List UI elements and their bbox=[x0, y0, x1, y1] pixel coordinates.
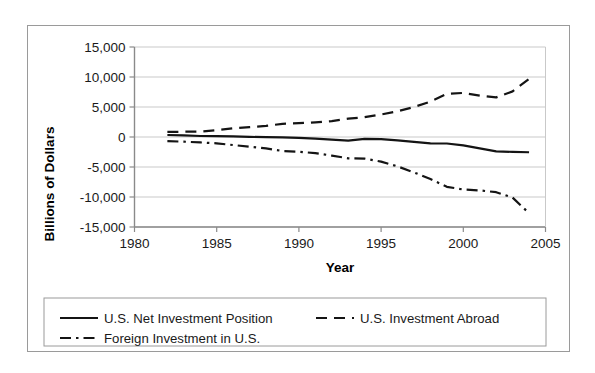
x-tick-labels: 198019851990199520002005 bbox=[119, 236, 560, 251]
series-line-2 bbox=[167, 141, 529, 213]
y-tick-label: 0 bbox=[118, 130, 126, 145]
series-line-1 bbox=[167, 79, 529, 132]
y-tick-labels: 15,00010,0005,0000-5,000-10,000-15,000 bbox=[80, 40, 126, 235]
x-tick-label: 2000 bbox=[448, 236, 478, 251]
y-tick-label: 5,000 bbox=[92, 100, 126, 115]
y-tickmarks bbox=[130, 47, 135, 227]
legend: U.S. Net Investment PositionU.S. Investm… bbox=[44, 298, 546, 346]
x-tick-label: 1990 bbox=[284, 236, 314, 251]
x-tick-label: 2005 bbox=[530, 236, 560, 251]
chart-canvas: 15,00010,0005,0000-5,000-10,000-15,000 1… bbox=[0, 0, 595, 373]
y-tick-label: -15,000 bbox=[80, 220, 126, 235]
y-tick-label: -10,000 bbox=[80, 190, 126, 205]
y-axis-title: Billions of Dollars bbox=[42, 127, 57, 242]
x-tick-label: 1985 bbox=[202, 236, 232, 251]
x-tick-label: 1995 bbox=[366, 236, 396, 251]
y-tick-label: 15,000 bbox=[84, 40, 125, 55]
x-axis-title: Year bbox=[326, 260, 355, 275]
legend-label-2: Foreign Investment in U.S. bbox=[104, 331, 260, 346]
y-tick-label: -5,000 bbox=[87, 160, 125, 175]
series-group bbox=[167, 79, 529, 213]
x-tick-label: 1980 bbox=[119, 236, 149, 251]
y-gridlines bbox=[135, 47, 546, 227]
legend-label-0: U.S. Net Investment Position bbox=[104, 311, 273, 326]
y-tick-label: 10,000 bbox=[84, 70, 125, 85]
x-tickmarks bbox=[135, 227, 546, 232]
figure-root: 15,00010,0005,0000-5,000-10,000-15,000 1… bbox=[0, 0, 595, 373]
legend-label-1: U.S. Investment Abroad bbox=[360, 311, 499, 326]
